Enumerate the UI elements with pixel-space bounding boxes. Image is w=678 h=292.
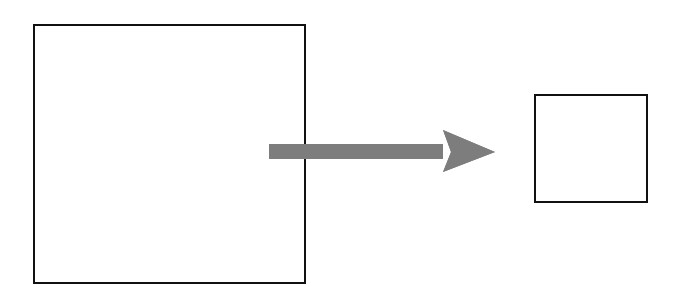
small-square-shape [534, 94, 648, 203]
right-arrow-head-icon [443, 130, 495, 172]
diagram-canvas [0, 0, 678, 292]
right-arrow-connector [261, 122, 503, 180]
